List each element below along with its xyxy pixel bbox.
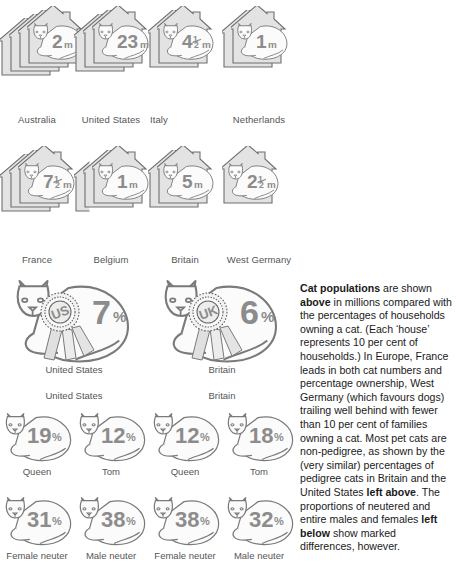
infographic-canvas: 2mAustralia23mUnited States412mItaly1mNe… [0,0,458,565]
caption-text: in millions compared with the percentage… [300,296,452,498]
house-row-bottom: 712mFrance1mBelgium5mBritain212mWest Ger… [0,146,298,276]
svg-text:m: m [267,179,276,190]
cat-stat-value: 19 [27,423,51,448]
svg-text:m: m [268,39,277,50]
svg-text:m: m [129,179,138,190]
rosette-label: United States [0,364,148,375]
svg-text:m: m [194,179,203,190]
cat-stat-value: 12 [175,423,199,448]
house-group-belgium: 1mBelgium [74,146,148,276]
svg-text:%: % [52,431,62,443]
svg-text:2: 2 [52,31,63,52]
rosette-value: 6 [240,293,259,331]
cat-stat-value: 12 [101,423,125,448]
house-stack: 1m [74,146,148,254]
rosette-label: Britain [148,364,296,375]
cat-stat-value: 18 [249,423,273,448]
svg-text:%: % [52,515,62,527]
cat-stat-label: Tom [74,466,148,477]
svg-text:2: 2 [194,40,199,50]
cat-stat-cell: 12%Tom [74,402,148,488]
country-label: Netherlands [222,114,296,125]
cat-stat-cell: 38%Female neuter [148,486,222,565]
cat-icon: 31% [0,486,74,550]
cat-icon: 32% [222,486,296,550]
svg-text:%: % [261,308,274,325]
country-label: Australia [0,114,74,125]
svg-text:%: % [126,431,136,443]
cat-icon: 38% [148,486,222,550]
cat-stat-value: 31 [27,507,51,532]
cat-icon: 23m [93,6,151,66]
cat-stat-label: Female neuter [148,550,222,561]
svg-text:2: 2 [55,180,60,190]
cat-icon: 12% [74,402,148,466]
cat-icon: 712m [19,146,77,206]
cat-icon: 12% [148,402,222,466]
house-row-top: 2mAustralia23mUnited States412mItaly1mNe… [0,6,298,136]
svg-text:23: 23 [117,31,138,52]
svg-text:%: % [113,308,126,325]
cat-stat-cell: 12%Queen [148,402,222,488]
rosette-us: US7%United States [0,264,148,386]
cat-stat-label: Male neuter [74,550,148,561]
house-stack: 712m [0,146,74,254]
caption-emphasis: Cat populations [300,282,380,294]
cat-icon: 1m [93,146,151,206]
rosette-uk: UK6%Britain [148,264,296,386]
svg-text:1: 1 [117,171,128,192]
country-label: United States [74,114,148,125]
house-group-britain: 5mBritain [148,146,222,276]
house-stack: 212m [222,146,296,254]
house-stack: 412m [148,6,222,114]
svg-text:%: % [274,431,284,443]
group-heading-britain: Britain [148,390,296,401]
house-stack: 1m [222,6,296,114]
house-group-france: 712mFrance [0,146,74,276]
cat-stat-value: 38 [101,507,125,532]
rosette-cat-icon: US7% [0,264,148,364]
svg-text:%: % [126,515,136,527]
svg-text:%: % [200,515,210,527]
svg-text:1: 1 [256,31,267,52]
house-group-australia: 2mAustralia [0,6,74,136]
svg-text:2: 2 [259,180,264,190]
cat-stat-value: 38 [175,507,199,532]
rosette-value: 7 [92,293,111,331]
svg-text:m: m [64,39,73,50]
country-label: Italy [148,114,224,125]
pedigree-rosette-row: US7%United StatesUK6%Britain [0,264,298,386]
house-stack: 5m [148,146,222,254]
cat-stat-label: Queen [148,466,222,477]
caption-emphasis: left above [367,486,416,498]
house-stack: 2m [0,6,74,114]
group-heading-united-states: United States [0,390,148,401]
caption-emphasis: above [300,296,331,308]
house-group-west-germany: 212mWest Germany [222,146,296,276]
cat-icon: 412m [158,6,216,66]
svg-text:m: m [63,179,72,190]
entire-cats-grid: 19%Queen12%Tom12%Queen18%Tom [0,402,298,488]
neuter-cats-grid: 31%Female neuter38%Male neuter38%Female … [0,486,298,565]
cat-icon: 38% [74,486,148,550]
cat-stat-cell: 19%Queen [0,402,74,488]
cat-stat-label: Female neuter [0,550,74,561]
caption-text: are shown [380,282,432,294]
cat-stat-cell: 18%Tom [222,402,296,488]
cat-icon: 212m [223,146,281,206]
cat-icon: 19% [0,402,74,466]
cat-stat-label: Male neuter [222,550,296,561]
cat-stat-cell: 38%Male neuter [74,486,148,565]
svg-text:%: % [274,515,284,527]
cat-stat-label: Queen [0,466,74,477]
cat-icon: 5m [158,146,216,206]
cat-stat-value: 32 [249,507,273,532]
rosette-cat-icon: UK6% [148,264,296,364]
caption-paragraph: Cat populations are shown above in milli… [300,282,452,554]
house-group-netherlands: 1mNetherlands [222,6,296,136]
svg-text:m: m [202,39,211,50]
cat-stat-label: Tom [222,466,296,477]
cat-icon: 1m [232,6,290,66]
svg-text:5: 5 [182,171,193,192]
house-stack: 23m [74,6,148,114]
